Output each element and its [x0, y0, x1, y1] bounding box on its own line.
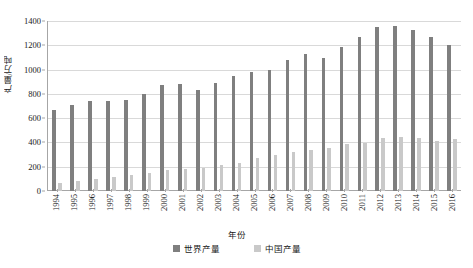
- bar-group: [335, 21, 353, 191]
- legend-label: 中国产量: [265, 242, 301, 254]
- y-axis-tick-label: 1000: [24, 65, 41, 75]
- bar-group: [48, 21, 66, 191]
- bar-world-production: [268, 70, 272, 191]
- bar-china-production: [220, 165, 224, 191]
- x-axis-tick-label: 2004: [232, 194, 241, 211]
- x-axis-tick-mark: [183, 189, 184, 192]
- x-axis-tick-label: 1998: [124, 194, 133, 211]
- bar-china-production: [130, 175, 134, 191]
- bar-china-production: [435, 141, 439, 191]
- y-axis-tick-label: 200: [28, 162, 41, 172]
- x-axis-tick-mark: [219, 189, 220, 192]
- x-axis-tick-label: 2013: [394, 194, 403, 211]
- y-axis-tick-mark: [42, 21, 45, 22]
- bar-china-production: [345, 144, 349, 191]
- bar-world-production: [70, 105, 74, 191]
- y-axis-tick-label: 0: [37, 186, 41, 196]
- legend-swatch-icon: [254, 245, 261, 252]
- bar-group: [246, 21, 264, 191]
- x-axis-tick-label: 2000: [160, 194, 169, 211]
- legend-label: 世界产量: [184, 242, 220, 254]
- bar-china-production: [238, 163, 242, 191]
- x-axis-tick-mark: [380, 189, 381, 192]
- bar-group: [102, 21, 120, 191]
- bar-china-production: [381, 138, 385, 191]
- x-axis-tick-mark: [272, 189, 273, 192]
- bar-world-production: [142, 94, 146, 191]
- bar-world-production: [106, 101, 110, 191]
- y-axis-tick-label: 400: [28, 137, 41, 147]
- x-axis-tick-label: 1994: [52, 194, 61, 211]
- bar-group: [353, 21, 371, 191]
- bar-group: [120, 21, 138, 191]
- x-axis-tick-label: 2012: [376, 194, 385, 211]
- x-axis-tick-label: 2006: [268, 194, 277, 211]
- bar-world-production: [214, 83, 218, 191]
- bar-group: [263, 21, 281, 191]
- x-axis-tick-label: 1999: [142, 194, 151, 211]
- y-axis-tick-label: 800: [28, 89, 41, 99]
- bar-group: [66, 21, 84, 191]
- bar-world-production: [375, 27, 379, 191]
- x-axis-tick-mark: [129, 189, 130, 192]
- legend-item[interactable]: 世界产量: [173, 242, 220, 254]
- bar-world-production: [393, 26, 397, 191]
- x-axis-tick-mark: [344, 189, 345, 192]
- bar-china-production: [184, 169, 188, 191]
- bar-group: [425, 21, 443, 191]
- bar-world-production: [196, 90, 200, 191]
- bar-china-production: [453, 139, 457, 191]
- y-axis-tick-mark: [42, 93, 45, 94]
- y-axis-tick-label: 1200: [24, 40, 41, 50]
- bar-china-production: [112, 177, 116, 191]
- bar-world-production: [304, 54, 308, 191]
- bar-group: [174, 21, 192, 191]
- bar-world-production: [88, 101, 92, 191]
- y-axis-tick-mark: [42, 166, 45, 167]
- x-axis-tick-mark: [165, 189, 166, 192]
- x-axis-tick-mark: [398, 189, 399, 192]
- x-axis-tick-mark: [255, 189, 256, 192]
- bar-china-production: [363, 143, 367, 191]
- bar-group: [389, 21, 407, 191]
- bar-china-production: [292, 152, 296, 191]
- bar-group: [371, 21, 389, 191]
- x-axis-tick-label: 2010: [340, 194, 349, 211]
- x-axis-tick-mark: [362, 189, 363, 192]
- x-axis-tick-label: 2015: [430, 194, 439, 211]
- y-axis-tick-mark: [42, 69, 45, 70]
- x-axis-tick-label: 1996: [88, 194, 97, 211]
- bar-group: [156, 21, 174, 191]
- x-axis-tick-mark: [57, 189, 58, 192]
- x-axis-tick-label: 1995: [70, 194, 79, 211]
- bar-group: [443, 21, 461, 191]
- bar-china-production: [399, 137, 403, 191]
- x-axis-tick-mark: [326, 189, 327, 192]
- bar-world-production: [286, 60, 290, 191]
- x-axis-tick-label: 2016: [448, 194, 457, 211]
- x-axis-tick-label: 2001: [178, 194, 187, 211]
- x-axis-tick-label: 2002: [196, 194, 205, 211]
- bar-world-production: [160, 85, 164, 191]
- x-axis-tick-label: 2007: [286, 194, 295, 211]
- y-axis-tick-label: 1400: [24, 16, 41, 26]
- bar-world-production: [52, 110, 56, 191]
- y-axis-tick-mark: [42, 118, 45, 119]
- bar-china-production: [166, 170, 170, 191]
- bar-china-production: [327, 148, 331, 191]
- bar-china-production: [202, 168, 206, 191]
- y-axis-tick-mark: [42, 45, 45, 46]
- legend-item[interactable]: 中国产量: [254, 242, 301, 254]
- bar-world-production: [232, 76, 236, 191]
- x-axis-tick-labels: 1994199519961997199819992000200120022003…: [48, 192, 461, 226]
- bar-group: [138, 21, 156, 191]
- x-axis-title: 年份: [0, 228, 473, 240]
- legend-swatch-icon: [173, 245, 180, 252]
- bar-china-production: [148, 173, 152, 191]
- x-axis-tick-mark: [290, 189, 291, 192]
- x-axis-tick-mark: [416, 189, 417, 192]
- bars-layer: [48, 21, 461, 191]
- x-axis-tick-label: 2009: [322, 194, 331, 211]
- x-axis-tick-label: 2005: [250, 194, 259, 211]
- y-axis-tick-mark: [42, 191, 45, 192]
